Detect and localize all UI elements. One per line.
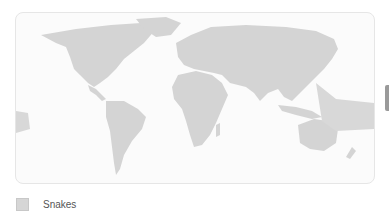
south-america: [106, 101, 146, 175]
new-zealand: [346, 147, 356, 159]
legend: Snakes: [16, 198, 76, 211]
legend-swatch-snakes: [16, 198, 29, 211]
edge-tab: [385, 85, 389, 111]
madagascar: [216, 123, 220, 137]
indonesia: [278, 105, 322, 119]
continents: [41, 17, 356, 175]
north-america: [41, 23, 156, 87]
snake-range-west-pacific: [16, 111, 30, 133]
central-america: [88, 85, 106, 101]
legend-label-snakes: Snakes: [43, 199, 76, 210]
africa: [172, 71, 228, 147]
world-map-graphic: [16, 13, 374, 183]
world-map: [15, 12, 375, 184]
